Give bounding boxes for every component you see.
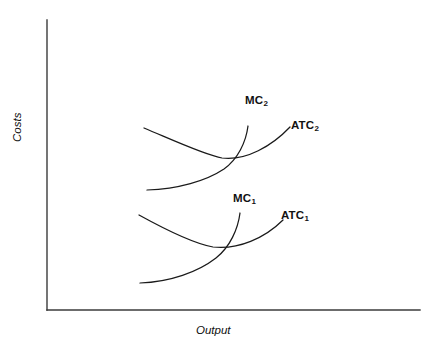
x-axis-label: Output — [196, 325, 231, 337]
curve-label-mc1-text: MC — [233, 192, 251, 204]
curve-label-mc1: MC1 — [233, 193, 256, 205]
curve-label-mc2-text: MC — [245, 94, 263, 106]
plot-area — [0, 0, 428, 347]
curve-label-mc1-subscript: 1 — [251, 197, 256, 206]
curve-label-mc2: MC2 — [245, 95, 268, 107]
y-axis-label: Costs — [12, 113, 24, 142]
curve-label-atc2: ATC2 — [291, 120, 319, 132]
curve-label-atc1-subscript: 1 — [304, 214, 309, 223]
curve-label-atc1-text: ATC — [281, 209, 304, 221]
curve-label-atc1: ATC1 — [281, 210, 309, 222]
curve-label-mc2-subscript: 2 — [263, 99, 268, 108]
curve-label-atc2-subscript: 2 — [314, 124, 319, 133]
curve-atc2 — [144, 127, 290, 158]
curve-label-atc2-text: ATC — [291, 119, 314, 131]
cost-curves-figure: MC2 ATC2 MC1 ATC1 Costs Output — [0, 0, 428, 347]
curve-atc1 — [139, 215, 283, 247]
